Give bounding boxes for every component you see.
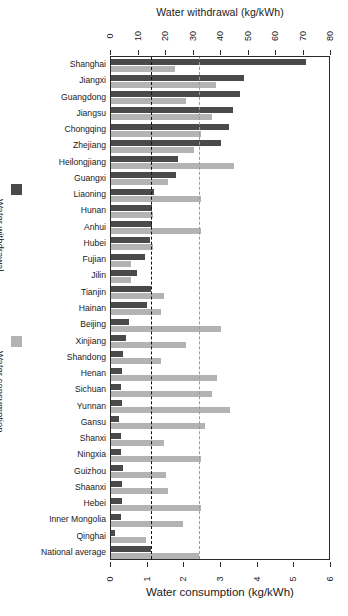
bar-water-withdrawal bbox=[111, 384, 121, 390]
bar-group bbox=[111, 122, 329, 138]
bar-water-consumption bbox=[111, 163, 234, 169]
bar-water-withdrawal bbox=[111, 302, 147, 308]
bar-water-consumption bbox=[111, 521, 183, 527]
category-label: Shaanxi bbox=[28, 482, 106, 492]
bar-water-withdrawal bbox=[111, 75, 244, 81]
top-axis-tick-label: 80 bbox=[325, 24, 335, 48]
category-label: Qinghai bbox=[28, 531, 106, 541]
category-label: Jiangsu bbox=[28, 108, 106, 118]
consumption-national-reference bbox=[199, 57, 200, 559]
category-label: Guangxi bbox=[28, 173, 106, 183]
category-label: Hunan bbox=[28, 205, 106, 215]
bottom-axis-tick-label: 6 bbox=[325, 567, 335, 591]
top-axis-tick bbox=[193, 50, 194, 55]
bar-group bbox=[111, 382, 329, 398]
category-label: Anhui bbox=[28, 222, 106, 232]
category-label: Guangdong bbox=[28, 92, 106, 102]
bar-water-withdrawal bbox=[111, 416, 119, 422]
category-label: Hainan bbox=[28, 303, 106, 313]
legend-label-water-consumption: Water consumption bbox=[0, 351, 6, 433]
top-axis-tick bbox=[275, 50, 276, 55]
bar-water-consumption bbox=[111, 179, 168, 185]
bar-water-consumption bbox=[111, 456, 201, 462]
bar-water-consumption bbox=[111, 553, 199, 559]
plot-area bbox=[110, 56, 330, 560]
top-axis-tick-label: 20 bbox=[160, 24, 170, 48]
bar-group bbox=[111, 480, 329, 496]
category-label: Guizhou bbox=[28, 466, 106, 476]
category-label: Heilongjiang bbox=[28, 157, 106, 167]
bar-water-withdrawal bbox=[111, 91, 240, 97]
bar-water-withdrawal bbox=[111, 465, 123, 471]
bar-water-withdrawal bbox=[111, 270, 137, 276]
category-label: Gansu bbox=[28, 417, 106, 427]
bar-water-consumption bbox=[111, 326, 221, 332]
bar-water-consumption bbox=[111, 537, 146, 543]
bottom-axis-tick-label: 4 bbox=[252, 567, 262, 591]
bar-water-consumption bbox=[111, 488, 168, 494]
category-label: Sichuan bbox=[28, 384, 106, 394]
category-label: Xinjiang bbox=[28, 336, 106, 346]
top-axis-tick bbox=[165, 50, 166, 55]
bar-water-consumption bbox=[111, 114, 212, 120]
bar-water-withdrawal bbox=[111, 172, 176, 178]
bar-group bbox=[111, 268, 329, 284]
bar-group bbox=[111, 301, 329, 317]
bar-water-consumption bbox=[111, 147, 194, 153]
category-axis-labels: ShanghaiJiangxiGuangdongJiangsuChongqing… bbox=[28, 56, 106, 560]
chart-figure: Water withdrawal (kg/kWh) Water consumpt… bbox=[0, 0, 348, 616]
bar-group bbox=[111, 317, 329, 333]
bar-water-withdrawal bbox=[111, 319, 129, 325]
bar-group bbox=[111, 431, 329, 447]
bar-water-withdrawal bbox=[111, 205, 152, 211]
top-axis-tick bbox=[220, 50, 221, 55]
bar-group bbox=[111, 333, 329, 349]
top-axis-tick-label: 30 bbox=[188, 24, 198, 48]
bar-water-consumption bbox=[111, 472, 166, 478]
bar-group bbox=[111, 415, 329, 431]
legend-swatch-water-withdrawal bbox=[11, 184, 22, 195]
bar-water-consumption bbox=[111, 66, 175, 72]
bar-group bbox=[111, 90, 329, 106]
bar-water-consumption bbox=[111, 309, 161, 315]
bar-water-withdrawal bbox=[111, 368, 122, 374]
bar-water-consumption bbox=[111, 391, 212, 397]
bar-water-consumption bbox=[111, 440, 164, 446]
bar-water-withdrawal bbox=[111, 221, 152, 227]
category-label: Ningxia bbox=[28, 449, 106, 459]
bar-group bbox=[111, 73, 329, 89]
bar-water-withdrawal bbox=[111, 156, 178, 162]
category-label: Shanghai bbox=[28, 59, 106, 69]
bar-water-consumption bbox=[111, 407, 230, 413]
bar-water-consumption bbox=[111, 131, 201, 137]
bottom-axis-tick-label: 2 bbox=[178, 567, 188, 591]
bar-group bbox=[111, 528, 329, 544]
bar-group bbox=[111, 463, 329, 479]
bottom-axis-tick-label: 5 bbox=[288, 567, 298, 591]
category-label: Tianjin bbox=[28, 287, 106, 297]
category-label: Jiangxi bbox=[28, 75, 106, 85]
bar-water-consumption bbox=[111, 293, 164, 299]
top-axis-tick-label: 60 bbox=[270, 24, 280, 48]
bar-water-withdrawal bbox=[111, 530, 115, 536]
bar-group bbox=[111, 366, 329, 382]
bar-water-consumption bbox=[111, 277, 131, 283]
bar-water-consumption bbox=[111, 212, 153, 218]
bar-group bbox=[111, 155, 329, 171]
bar-water-withdrawal bbox=[111, 189, 154, 195]
category-label: Henan bbox=[28, 368, 106, 378]
bar-group bbox=[111, 350, 329, 366]
category-label: Jilin bbox=[28, 270, 106, 280]
bar-group bbox=[111, 106, 329, 122]
bar-water-withdrawal bbox=[111, 546, 151, 552]
withdrawal-national-reference bbox=[151, 57, 152, 559]
bar-water-consumption bbox=[111, 228, 201, 234]
category-label: National average bbox=[28, 547, 106, 557]
top-axis-tick bbox=[303, 50, 304, 55]
top-axis-tick bbox=[330, 50, 331, 55]
category-label: Chongqing bbox=[28, 124, 106, 134]
category-label: Shandong bbox=[28, 352, 106, 362]
bottom-axis-tick-label: 1 bbox=[142, 567, 152, 591]
top-axis-title: Water withdrawal (kg/kWh) bbox=[110, 6, 330, 18]
bottom-axis-tick-label: 0 bbox=[105, 567, 115, 591]
